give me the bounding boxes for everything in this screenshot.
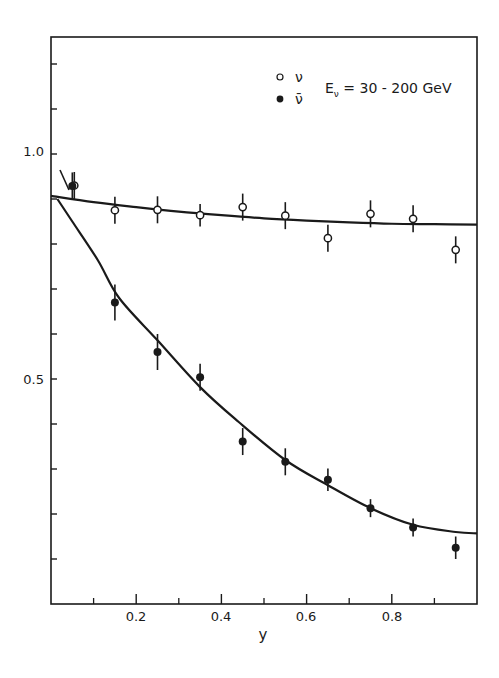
energy-range-text: = 30 - 200 GeV xyxy=(339,80,452,96)
nu-data-point xyxy=(154,196,161,223)
open-circle-marker-icon xyxy=(282,212,289,219)
filled-circle-marker-icon xyxy=(452,544,460,552)
filled-circle-marker-icon xyxy=(196,373,204,381)
chart-figure: 1.0 0.5 0.2 0.4 0.6 0.8 y ν ν̄ Eν = 30 -… xyxy=(0,0,499,678)
chart-canvas: 1.0 0.5 0.2 0.4 0.6 0.8 y ν ν̄ Eν = 30 -… xyxy=(0,0,499,678)
legend-label-nu: ν xyxy=(295,69,303,85)
x-tick-label-0.6: 0.6 xyxy=(296,609,317,624)
nu-data-point xyxy=(282,202,289,229)
nu-data-point xyxy=(197,204,204,227)
y-tick-label-0.5: 0.5 xyxy=(23,372,44,387)
legend-label-antinu: ν̄ xyxy=(295,91,303,107)
x-tick-label-0.4: 0.4 xyxy=(211,609,232,624)
antinu-data-point xyxy=(154,334,162,370)
nu-data-point xyxy=(111,197,118,224)
antinu-data-point xyxy=(111,285,119,321)
x-tick-label-0.2: 0.2 xyxy=(126,609,147,624)
y-axis-ticks xyxy=(51,64,57,559)
filled-circle-marker-icon xyxy=(409,524,417,532)
antinu-data-point xyxy=(281,448,289,475)
open-circle-marker-icon xyxy=(324,235,331,242)
energy-symbol: E xyxy=(325,80,334,96)
open-circle-marker-icon xyxy=(111,207,118,214)
energy-range-annotation: Eν = 30 - 200 GeV xyxy=(325,80,452,99)
antinu-data-point xyxy=(452,537,460,560)
legend-open-circle-icon xyxy=(277,74,283,80)
open-circle-marker-icon xyxy=(197,212,204,219)
antinu-data-point xyxy=(239,428,247,455)
open-circle-marker-icon xyxy=(410,215,417,222)
antinu-data-point xyxy=(196,364,204,391)
legend: ν ν̄ Eν = 30 - 200 GeV xyxy=(277,69,452,107)
nu-data-point xyxy=(324,225,331,252)
nu-data-point xyxy=(410,205,417,232)
filled-circle-marker-icon xyxy=(281,458,289,466)
open-circle-marker-icon xyxy=(239,204,246,211)
x-axis-title: y xyxy=(259,626,268,644)
y-tick-label-1.0: 1.0 xyxy=(23,144,44,159)
data-points xyxy=(68,172,459,559)
filled-circle-marker-icon xyxy=(239,438,247,446)
x-tick-label-0.8: 0.8 xyxy=(382,609,403,624)
filled-circle-marker-icon xyxy=(367,504,375,512)
x-axis-ticks xyxy=(94,594,435,604)
filled-circle-marker-icon xyxy=(68,182,76,190)
filled-circle-marker-icon xyxy=(324,476,332,484)
legend-filled-circle-icon xyxy=(277,96,284,103)
open-circle-marker-icon xyxy=(154,206,161,213)
nu-data-point xyxy=(452,236,459,263)
filled-circle-marker-icon xyxy=(111,299,119,307)
open-circle-marker-icon xyxy=(367,210,374,217)
antinu-data-point xyxy=(367,499,375,517)
filled-circle-marker-icon xyxy=(154,348,162,356)
antinu-fit-curve xyxy=(57,199,477,533)
open-circle-marker-icon xyxy=(452,246,459,253)
antinu-data-point xyxy=(68,172,76,199)
antinu-fit-curve-upper-segment xyxy=(60,170,69,190)
antinu-data-point xyxy=(409,519,417,537)
